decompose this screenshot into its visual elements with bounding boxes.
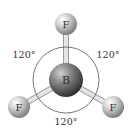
outer-atom-f-bottom-right: F [102,96,124,118]
svg-text:F: F [16,102,23,113]
central-atom-b: B [49,63,83,97]
svg-text:B: B [62,74,70,87]
outer-atom-f-bottom-left: F [8,96,30,118]
angle-label-right: 120° [97,49,120,60]
bf3-diagram: B F F F 120° 120° 120° [0,0,133,132]
molecule-svg: B F F F 120° 120° 120° [0,0,133,132]
outer-atom-f-top: F [55,13,77,35]
angle-label-bottom: 120° [55,116,78,127]
angle-label-left: 120° [13,49,36,60]
svg-text:F: F [63,19,70,30]
svg-text:F: F [110,102,117,113]
